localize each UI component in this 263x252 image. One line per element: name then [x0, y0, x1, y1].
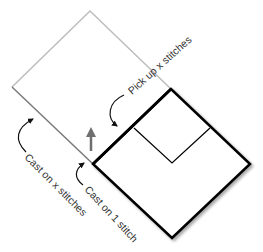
- cast-on-1-pointer-arrow: [76, 163, 84, 185]
- pick-up-pointer-arrow: [110, 95, 124, 126]
- mitered-square-diagram: Pick up x stitches Cast on x stitches Ca…: [0, 0, 263, 252]
- direction-arrow: [86, 127, 96, 151]
- arrow-up-icon: [86, 127, 96, 137]
- cast-on-x-label: Cast on x stitches: [23, 151, 90, 218]
- cast-on-x-pointer-arrow: [18, 119, 33, 152]
- pick-up-label: Pick up x stitches: [125, 33, 193, 96]
